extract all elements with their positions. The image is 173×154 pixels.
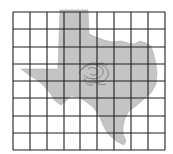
texas-grid-map: [0, 0, 173, 154]
